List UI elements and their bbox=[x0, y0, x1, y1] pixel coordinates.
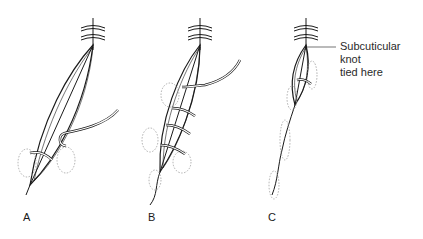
dotted-region-a2 bbox=[57, 147, 75, 173]
tail-c bbox=[272, 105, 295, 195]
panel-label-a: A bbox=[23, 211, 30, 223]
incision-line-a bbox=[30, 45, 93, 185]
stitch-b1 bbox=[172, 108, 195, 116]
dotted-region-b2 bbox=[142, 128, 158, 152]
annotation-line-2: tied here bbox=[340, 66, 423, 79]
dotted-region-b4 bbox=[149, 170, 161, 190]
dotted-region-b3 bbox=[173, 151, 191, 173]
panel-c-drawing bbox=[269, 18, 336, 199]
suture-diagram bbox=[0, 0, 423, 239]
stitch-b2 bbox=[166, 125, 190, 134]
panel-a-drawing bbox=[18, 18, 118, 195]
annotation-text: Subcuticular knot tied here bbox=[340, 40, 423, 79]
annotation-line-1: Subcuticular knot bbox=[340, 40, 423, 66]
panel-label-c: C bbox=[268, 211, 276, 223]
panel-b-drawing bbox=[142, 18, 240, 205]
wound-inner-a bbox=[34, 47, 93, 181]
tail-a bbox=[26, 185, 30, 195]
panel-label-b: B bbox=[148, 211, 155, 223]
